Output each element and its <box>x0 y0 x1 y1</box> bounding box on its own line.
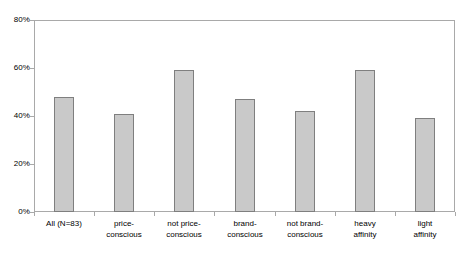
x-axis-tick-mark <box>94 212 95 216</box>
bar <box>415 118 435 212</box>
x-axis-label-line1: brand- <box>233 219 256 228</box>
x-axis-tick-mark <box>34 212 35 216</box>
x-axis-label-line1: not price- <box>167 219 200 228</box>
x-axis-label-line1: All (N=83) <box>46 219 82 228</box>
x-axis-label-line1: light <box>418 219 433 228</box>
x-axis-label-line1: heavy <box>354 219 375 228</box>
x-axis-label-line1: not brand- <box>287 219 323 228</box>
bar <box>114 114 134 212</box>
bar-chart: 80%60%40%20%0% All (N=83)price-conscious… <box>0 0 465 267</box>
bar <box>54 97 74 212</box>
x-axis-tick-mark <box>455 212 456 216</box>
bar <box>295 111 315 212</box>
x-axis: All (N=83)price-consciousnot price-consc… <box>0 218 465 263</box>
x-axis-tick-mark <box>275 212 276 216</box>
bar <box>235 99 255 212</box>
x-axis-tick-mark <box>335 212 336 216</box>
x-axis-label-line2: affinity <box>385 229 465 240</box>
x-axis-tick-mark <box>154 212 155 216</box>
x-axis-category-label: lightaffinity <box>385 218 465 240</box>
x-axis-label-line1: price- <box>114 219 134 228</box>
bar <box>355 70 375 212</box>
x-axis-tick-mark <box>214 212 215 216</box>
x-axis-tick-mark <box>395 212 396 216</box>
bar <box>174 70 194 212</box>
